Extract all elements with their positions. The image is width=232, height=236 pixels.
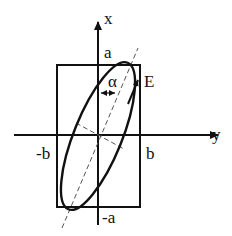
polarization-ellipse-diagram: x y a -a -b b E α [0, 0, 232, 236]
angle-label: α [108, 72, 117, 91]
horizontal-axis-label: y [212, 125, 221, 144]
field-vector-label: E [144, 72, 154, 91]
top-bound-label: a [104, 43, 112, 62]
left-bound-label: -b [36, 144, 50, 163]
bottom-bound-label: -a [102, 208, 116, 227]
right-bound-label: b [146, 144, 155, 163]
vertical-axis-label: x [104, 9, 113, 28]
major-axis-dashed [62, 48, 138, 228]
